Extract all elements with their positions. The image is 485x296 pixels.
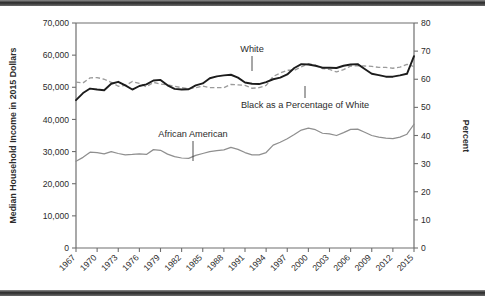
x-tick-label: 1985	[184, 252, 205, 273]
annotation-white-label: White	[240, 44, 264, 54]
x-tick-label: 1997	[268, 252, 289, 273]
figure-bottom-rule	[0, 290, 485, 296]
left-tick-label: 70,000	[43, 18, 70, 28]
right-tick-label: 40	[421, 131, 431, 141]
right-tick-label: 30	[421, 159, 431, 169]
series-line-white	[76, 56, 414, 100]
x-tick-label: 2000	[289, 252, 310, 273]
left-tick-label: 40,000	[43, 115, 70, 125]
left-tick-label: 0	[64, 243, 69, 253]
left-tick-label: 30,000	[43, 147, 70, 157]
right-tick-label: 50	[421, 102, 431, 112]
x-tick-label: 2012	[374, 252, 395, 273]
x-tick-label: 2015	[395, 252, 416, 273]
x-tick-label: 2003	[310, 252, 331, 273]
x-tick-label: 1982	[162, 252, 183, 273]
x-tick-label: 2009	[353, 252, 374, 273]
annotation-ratio: Black as a Percentage of White	[241, 86, 369, 110]
x-tick-label: 1970	[78, 252, 99, 273]
annotation-ratio-label: Black as a Percentage of White	[241, 100, 369, 110]
x-tick-label: 2006	[331, 252, 352, 273]
x-tick-label: 1967	[57, 252, 78, 273]
annotation-african-american: African American	[158, 129, 227, 161]
right-tick-label: 60	[421, 74, 431, 84]
right-axis-ticks: 01020304050607080	[414, 18, 431, 253]
x-tick-label: 1976	[120, 252, 141, 273]
left-tick-label: 10,000	[43, 211, 70, 221]
right-tick-label: 70	[421, 46, 431, 56]
x-tick-label: 1979	[141, 252, 162, 273]
right-tick-label: 10	[421, 215, 431, 225]
right-tick-label: 0	[421, 243, 426, 253]
x-tick-label: 1994	[247, 252, 268, 273]
line-chart: 010,00020,00030,00040,00050,00060,00070,…	[0, 6, 485, 290]
x-tick-label: 1988	[205, 252, 226, 273]
series-line-african-american	[76, 124, 414, 161]
x-tick-label: 1991	[226, 252, 247, 273]
chart-plot-area: 010,00020,00030,00040,00050,00060,00070,…	[0, 6, 485, 290]
left-tick-label: 50,000	[43, 82, 70, 92]
left-axis-ticks: 010,00020,00030,00040,00050,00060,00070,…	[43, 18, 76, 253]
y2-axis-title: Percent	[461, 120, 471, 152]
x-axis-ticks: 1967197019731976197919821985198819911994…	[57, 248, 416, 273]
right-tick-label: 80	[421, 18, 431, 28]
figure-container: 010,00020,00030,00040,00050,00060,00070,…	[0, 0, 485, 296]
annotation-african-american-label: African American	[158, 129, 227, 139]
left-tick-label: 60,000	[43, 50, 70, 60]
x-tick-label: 1973	[99, 252, 120, 273]
left-tick-label: 20,000	[43, 179, 70, 189]
y-axis-title: Median Household Income in 2015 Dollars	[8, 47, 18, 223]
right-tick-label: 20	[421, 187, 431, 197]
annotation-white: White	[240, 44, 264, 71]
